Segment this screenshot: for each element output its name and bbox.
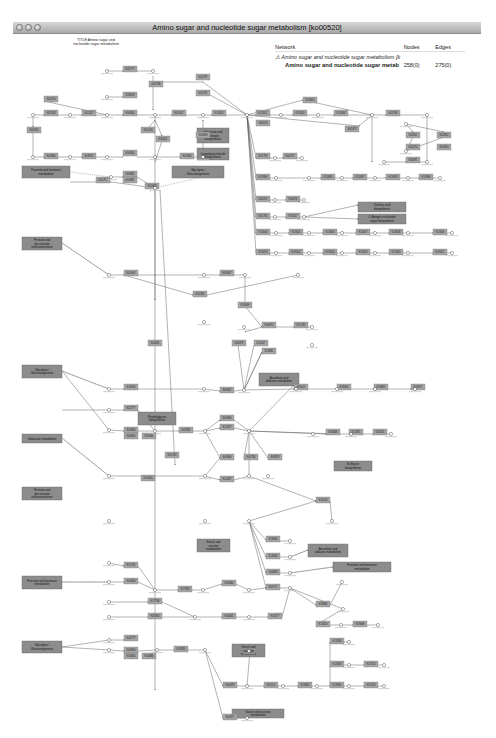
compound-node[interactable] [284,539,296,544]
compound-node[interactable] [296,156,308,161]
enzyme-node[interactable]: K00978 [232,340,246,346]
compound-node[interactable] [243,588,255,593]
pathway-map-node[interactable]: Ascorbate andaldarate metabolism [259,373,299,386]
enzyme-node[interactable]: K13565 [330,682,344,688]
enzyme-node[interactable]: K00845 [124,433,138,439]
compound-node[interactable] [199,648,211,653]
compound-node[interactable] [101,69,113,74]
compound-node[interactable] [402,251,414,256]
compound-node[interactable] [198,273,210,278]
enzyme-node[interactable]: K02472 [283,153,297,159]
pathway-diagram-canvas[interactable]: Fructose and mannosemetabolismGlycolysis… [13,34,481,734]
compound-node[interactable] [241,684,253,689]
enzyme-node[interactable]: K01791 [196,90,210,96]
compound-node[interactable] [378,160,390,165]
compound-node[interactable] [103,474,115,479]
enzyme-node[interactable]: K00966 [220,454,234,460]
compound-node[interactable] [198,320,210,325]
enzyme-node[interactable]: K01785 [294,322,308,328]
compound-node[interactable] [421,160,433,165]
enzyme-node[interactable]: K01183 [44,110,58,116]
compound-node[interactable] [64,155,76,160]
enzyme-node[interactable]: K01207 [82,110,96,116]
enzyme-node[interactable]: K13019 [356,249,370,255]
compound-node[interactable] [434,176,446,181]
enzyme-node[interactable]: K01795 [124,562,138,568]
enzyme-node[interactable]: K13015 [212,110,226,116]
enzyme-node[interactable]: K13005 [433,229,447,235]
enzyme-node[interactable]: K01280 [193,291,207,297]
compound-node[interactable] [446,251,458,256]
enzyme-node[interactable]: K13012 [256,110,270,116]
compound-node[interactable] [199,474,211,479]
enzyme-node[interactable]: K02472 [256,196,270,202]
compound-node[interactable] [270,176,282,181]
enzyme-node[interactable]: K13017 [254,340,268,346]
enzyme-node[interactable]: K13558 [330,638,344,644]
pathway-map-node[interactable]: Fructose and mannosemetabolism [333,562,391,572]
enzyme-node[interactable]: K00771 [266,584,280,590]
enzyme-node[interactable]: K00884 [44,153,58,159]
compound-node[interactable] [306,343,318,348]
compound-node[interactable] [197,113,209,118]
enzyme-node[interactable]: K01835 [179,427,193,433]
compound-node[interactable] [336,251,348,256]
pathway-map-node[interactable]: Fructose and mannosemetabolism [22,166,70,178]
enzyme-node[interactable]: K00845 [124,653,138,659]
enzyme-node[interactable]: K19872 [411,384,425,390]
enzyme-node[interactable]: K01057 [172,110,186,116]
enzyme-node[interactable]: K00849 [196,132,210,138]
compound-node[interactable] [103,648,115,653]
enzyme-node[interactable]: K15896 [419,174,433,180]
enzyme-node[interactable]: K02853 [437,144,451,150]
enzyme-node[interactable]: K01804 [180,153,194,159]
pathway-map-node[interactable]: Glycolysis /Gluconeogenesis [22,365,62,378]
enzyme-node[interactable]: K00881 [123,177,137,183]
enzyme-node[interactable]: K16150 [316,497,330,503]
enzyme-node[interactable]: K01784 [244,454,258,460]
enzyme-node[interactable]: K19005 [303,97,317,103]
compound-node[interactable] [238,388,250,393]
pathway-map-node[interactable]: Starch and sucrosemetabolism [232,709,284,718]
enzyme-node[interactable]: K01443 [141,127,155,133]
compound-node[interactable] [262,474,274,479]
compound-node[interactable] [402,231,414,236]
enzyme-node[interactable]: K13007 [356,229,370,235]
enzyme-node[interactable]: K18880 [316,601,330,607]
enzyme-node[interactable]: K15894 [256,174,270,180]
enzyme-node[interactable]: K00693 [266,569,280,575]
enzyme-node[interactable]: K15897 [353,174,367,180]
enzyme-node[interactable]: K00577 [268,613,282,619]
pathway-map-node[interactable]: Teichoic acidbiosynthesis [358,202,406,212]
enzyme-node[interactable]: K02852 [437,132,451,138]
enzyme-node[interactable]: K01102 [264,682,278,688]
compound-node[interactable] [269,215,281,220]
enzyme-node[interactable]: K06118 [256,120,270,126]
enzyme-node[interactable]: K00850 [148,613,162,619]
enzyme-node[interactable]: K15894 [334,110,348,116]
compound-node[interactable] [197,588,209,593]
enzyme-node[interactable]: K01795 [256,153,270,159]
enzyme-node[interactable]: K00978 [223,682,237,688]
compound-node[interactable] [269,156,281,161]
enzyme-node[interactable]: K01783 [165,452,179,458]
enzyme-node[interactable]: K13001 [289,229,303,235]
pathway-map-node[interactable]: Glycolysis /Gluconeogenesis [22,641,62,653]
enzyme-node[interactable]: K13010 [293,110,307,116]
compound-node[interactable] [312,113,324,118]
compound-node[interactable] [372,623,384,628]
enzyme-node[interactable]: K13020 [389,249,403,255]
enzyme-node[interactable]: K13017 [286,213,300,219]
enzyme-node[interactable]: K16181 [373,429,387,435]
enzyme-node[interactable]: K00844 [124,578,138,584]
enzyme-node[interactable]: K03431 [148,340,162,346]
compound-node[interactable] [27,155,39,160]
compound-node[interactable] [275,113,287,118]
compound-node[interactable] [303,176,315,181]
enzyme-node[interactable]: K00975 [223,714,237,720]
enzyme-node[interactable]: K02851 [406,132,420,138]
enzyme-node[interactable]: K17790 [148,598,162,604]
enzyme-node[interactable]: K01788 [149,81,163,87]
enzyme-node[interactable]: K02474 [406,144,420,150]
enzyme-node[interactable]: K03391 [406,157,420,163]
